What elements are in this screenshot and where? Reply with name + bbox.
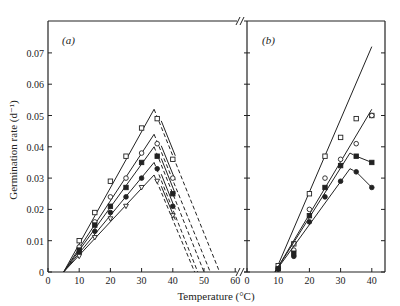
marker-square	[338, 135, 342, 139]
marker-square	[323, 154, 327, 158]
x-tick-label: 60	[230, 275, 240, 286]
fit-line-descent-dashed	[154, 162, 198, 272]
marker-square	[93, 210, 97, 214]
marker-square	[108, 204, 112, 208]
marker-circle	[307, 207, 312, 212]
y-tick-label: 0.05	[27, 111, 45, 122]
marker-circle	[124, 176, 129, 181]
marker-square	[307, 192, 311, 196]
marker-circle	[155, 166, 160, 171]
marker-circle	[276, 267, 281, 272]
marker-square	[171, 192, 175, 196]
y-tick-label: 0.02	[27, 204, 45, 215]
germination-rate-chart: 00.010.020.030.040.050.060.0701020304050…	[0, 0, 400, 306]
marker-circle	[354, 141, 359, 146]
marker-circle	[292, 254, 297, 259]
fit-line-descent-dashed	[154, 109, 220, 272]
y-tick-label: 0.06	[27, 79, 45, 90]
fit-line-descent-dashed	[154, 147, 204, 272]
marker-square	[354, 154, 358, 158]
marker-square	[354, 116, 358, 120]
marker-triangle	[124, 204, 129, 208]
panel-a-label: (a)	[62, 34, 75, 47]
x-tick-label: 50	[199, 275, 209, 286]
marker-circle	[370, 113, 375, 118]
marker-square	[338, 163, 342, 167]
panel-b-label: (b)	[262, 34, 275, 47]
x-tick-label: 40	[367, 275, 377, 286]
x-tick-label: 20	[304, 275, 314, 286]
fit-line-rising	[64, 175, 154, 272]
x-tick-label: 40	[168, 275, 178, 286]
marker-square	[93, 223, 97, 227]
marker-square	[370, 160, 374, 164]
marker-square	[124, 154, 128, 158]
connector-line	[356, 172, 372, 188]
marker-circle	[338, 179, 343, 184]
marker-circle	[108, 210, 113, 215]
plot-frame	[48, 17, 385, 276]
fit-line	[275, 47, 372, 272]
x-tick-label: 30	[336, 275, 346, 286]
marker-square	[155, 154, 159, 158]
marker-square	[77, 239, 81, 243]
y-tick-label: 0.03	[27, 173, 45, 184]
marker-circle	[354, 170, 359, 175]
marker-circle	[370, 185, 375, 190]
x-tick-label: 0	[46, 275, 51, 286]
marker-circle	[171, 204, 176, 209]
fit-line-descent-dashed	[154, 134, 210, 272]
marker-circle	[323, 176, 328, 181]
marker-circle	[307, 220, 312, 225]
marker-square	[155, 116, 159, 120]
chart-svg: 00.010.020.030.040.050.060.0701020304050…	[0, 0, 400, 306]
fit-line	[275, 109, 372, 272]
marker-triangle	[139, 185, 144, 189]
x-tick-label: 20	[105, 275, 115, 286]
x-tick-label: 30	[137, 275, 147, 286]
marker-square	[139, 160, 143, 164]
marker-triangle	[77, 254, 82, 258]
marker-triangle	[92, 236, 97, 240]
marker-circle	[338, 157, 343, 162]
marker-circle	[108, 195, 113, 200]
marker-square	[307, 213, 311, 217]
x-tick-label: 10	[273, 275, 283, 286]
data-series	[64, 47, 375, 272]
x-axis-label: Temperature (°C)	[177, 290, 255, 303]
y-tick-label: 0.04	[27, 142, 45, 153]
x-tick-label: 10	[74, 275, 84, 286]
marker-triangle	[155, 179, 160, 183]
y-tick-label: 0	[39, 267, 44, 278]
marker-square	[124, 185, 128, 189]
fit-line-descent-dashed	[154, 175, 195, 272]
y-axis-label: Germination rate (d⁻¹)	[7, 100, 20, 200]
y-tick-label: 0.07	[27, 48, 45, 59]
marker-square	[108, 179, 112, 183]
marker-square	[139, 126, 143, 130]
marker-circle	[124, 195, 129, 200]
marker-circle	[139, 151, 144, 156]
marker-circle	[155, 141, 160, 146]
marker-square	[323, 185, 327, 189]
y-tick-label: 0.01	[27, 236, 45, 247]
marker-circle	[139, 176, 144, 181]
fit-line	[275, 153, 350, 272]
marker-circle	[93, 229, 98, 234]
x-tick-label: 0	[245, 275, 250, 286]
marker-square	[171, 157, 175, 161]
marker-circle	[171, 176, 176, 181]
marker-circle	[323, 195, 328, 200]
